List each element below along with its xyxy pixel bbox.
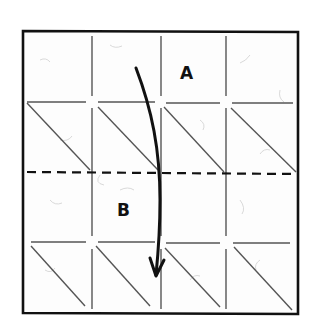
label-b: B [117,200,130,220]
origami-diagram: A B [0,0,316,331]
label-a: A [180,63,194,83]
